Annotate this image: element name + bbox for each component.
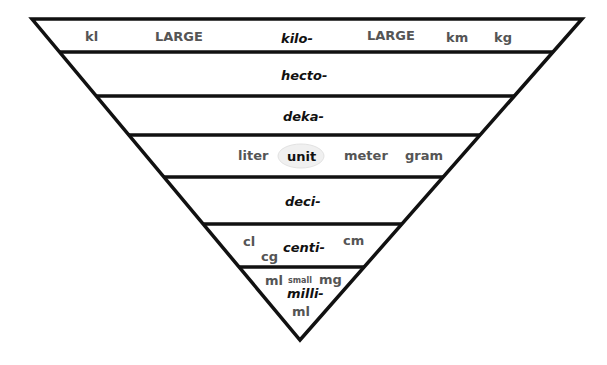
label-large-left: LARGE xyxy=(155,29,203,44)
label-large-right: LARGE xyxy=(367,28,415,43)
base-unit: unit xyxy=(287,149,316,164)
label-cm: cm xyxy=(343,233,364,248)
prefix-kilo: kilo- xyxy=(281,31,313,46)
label-ml-bottom: ml xyxy=(292,304,310,319)
label-liter: liter xyxy=(238,148,269,163)
label-small: small xyxy=(288,276,312,285)
label-gram: gram xyxy=(405,148,443,163)
label-cl: cl xyxy=(243,234,255,249)
label-ml-left: ml xyxy=(265,273,283,288)
prefix-deka: deka- xyxy=(283,109,324,124)
label-km: km xyxy=(446,30,468,45)
label-cg: cg xyxy=(261,249,278,264)
label-kg: kg xyxy=(494,30,512,45)
label-kl: kl xyxy=(85,29,98,44)
prefix-deci: deci- xyxy=(285,194,321,209)
prefix-milli: milli- xyxy=(287,286,324,301)
prefix-hecto: hecto- xyxy=(281,68,327,83)
label-mg: mg xyxy=(319,272,342,287)
metric-pyramid-diagram: kl LARGE kilo- LARGE km kg hecto- deka- … xyxy=(0,0,607,365)
label-meter: meter xyxy=(344,148,388,163)
prefix-centi: centi- xyxy=(283,240,325,255)
